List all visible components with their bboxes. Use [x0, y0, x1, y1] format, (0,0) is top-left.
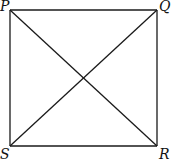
vertex-label-p: P [0, 0, 10, 14]
vertex-label-r: R [158, 146, 170, 162]
vertex-label-q: Q [159, 0, 171, 14]
vertex-label-s: S [0, 146, 10, 162]
square-edges [10, 10, 157, 146]
square-diagram: P Q R S [0, 0, 171, 163]
